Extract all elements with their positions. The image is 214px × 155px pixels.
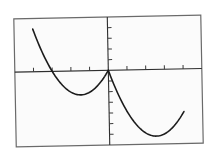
calculator-graph: f(x) = x^2 + 3x for x < 0; x^2 - 5x for … bbox=[0, 0, 214, 155]
plot-area bbox=[0, 0, 214, 155]
